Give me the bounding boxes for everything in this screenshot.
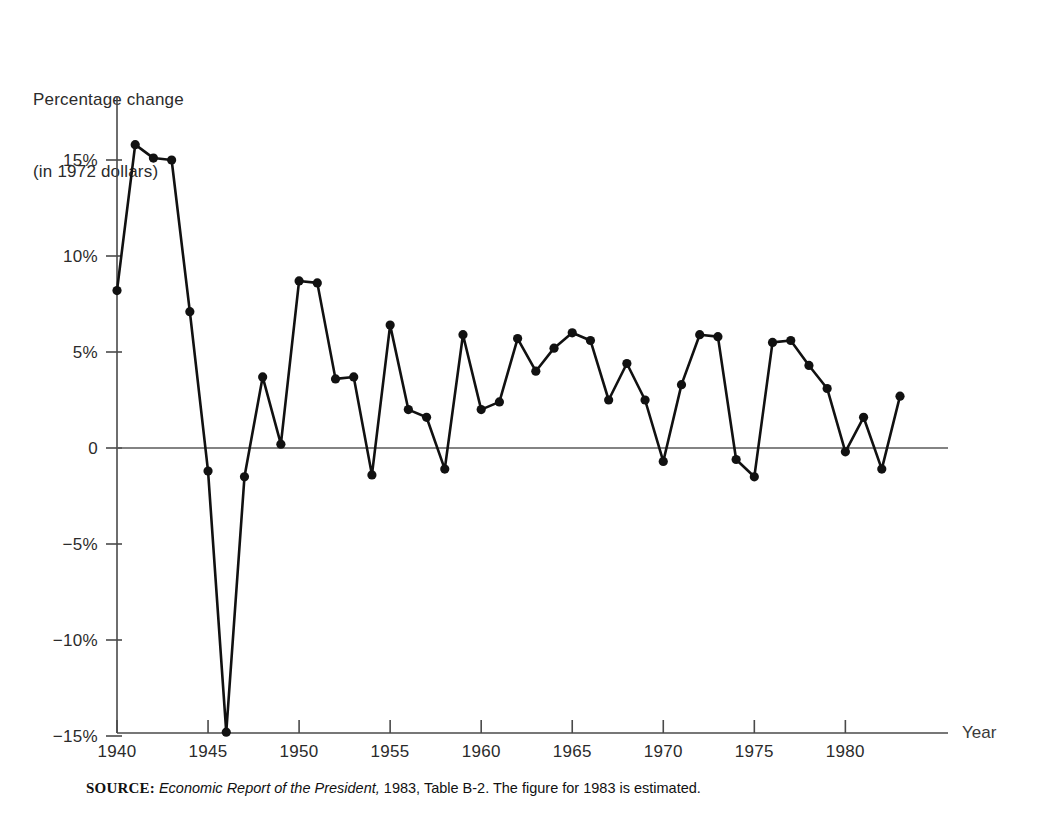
data-point (240, 472, 249, 481)
line-chart: 15%10%5%0−5%−10%−15% 1940194519501955196… (0, 0, 1043, 827)
data-point (440, 465, 449, 474)
y-tick-label: −5% (63, 535, 98, 554)
x-axis-name: Year (962, 723, 997, 742)
data-point (222, 728, 231, 737)
source-title: Economic Report of the President, (159, 780, 380, 796)
data-point (568, 328, 577, 337)
x-tick-label: 1980 (826, 742, 865, 761)
source-label: SOURCE: (86, 780, 155, 796)
figure-container: Percentage change (in 1972 dollars) 15%1… (0, 0, 1043, 827)
data-point (276, 440, 285, 449)
data-point (713, 332, 722, 341)
source-note: SOURCE: Economic Report of the President… (86, 780, 701, 797)
data-point (495, 397, 504, 406)
data-point (131, 140, 140, 149)
data-point (768, 338, 777, 347)
x-tick-label: 1940 (97, 742, 136, 761)
data-point (313, 278, 322, 287)
data-point (604, 395, 613, 404)
data-point (185, 307, 194, 316)
x-tick-label: 1955 (371, 742, 410, 761)
data-point (659, 457, 668, 466)
data-point (895, 392, 904, 401)
y-tick-label: −10% (53, 631, 98, 650)
data-point (258, 372, 267, 381)
data-point (477, 405, 486, 414)
y-tick-label: −15% (53, 727, 98, 746)
data-point (823, 384, 832, 393)
data-point (877, 465, 886, 474)
x-axis-ticks: 194019451950195519601965197019751980 (97, 720, 864, 761)
data-point (786, 336, 795, 345)
x-tick-label: 1965 (553, 742, 592, 761)
x-tick-label: 1975 (735, 742, 774, 761)
data-point (367, 470, 376, 479)
data-point (349, 372, 358, 381)
data-point (203, 466, 212, 475)
y-tick-label: 0 (88, 439, 98, 458)
data-point (859, 413, 868, 422)
y-tick-label: 15% (63, 151, 98, 170)
data-point (677, 380, 686, 389)
data-point (331, 374, 340, 383)
data-point (732, 455, 741, 464)
data-point (404, 405, 413, 414)
y-axis-ticks: 15%10%5%0−5%−10%−15% (53, 151, 122, 746)
data-point (386, 321, 395, 330)
data-point (640, 395, 649, 404)
x-tick-label: 1960 (462, 742, 501, 761)
data-point (804, 361, 813, 370)
source-rest: 1983, Table B-2. The figure for 1983 is … (380, 780, 701, 796)
x-tick-label: 1945 (189, 742, 228, 761)
data-point (586, 336, 595, 345)
data-point (750, 472, 759, 481)
data-point (622, 359, 631, 368)
data-point (531, 367, 540, 376)
y-tick-label: 10% (63, 247, 98, 266)
data-point (112, 286, 121, 295)
data-point (167, 155, 176, 164)
data-point (549, 344, 558, 353)
x-tick-label: 1970 (644, 742, 683, 761)
data-point (422, 413, 431, 422)
data-point (458, 330, 467, 339)
data-point (294, 276, 303, 285)
data-line (117, 145, 900, 733)
x-tick-label: 1950 (280, 742, 319, 761)
data-point (149, 153, 158, 162)
data-point (841, 447, 850, 456)
data-point (513, 334, 522, 343)
y-tick-label: 5% (73, 343, 98, 362)
data-point (695, 330, 704, 339)
